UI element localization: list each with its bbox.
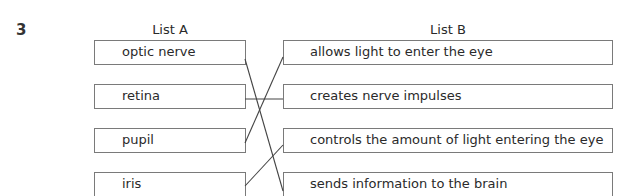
list-a-item-pupil[interactable]: pupil	[94, 128, 246, 153]
list-a-item-retina[interactable]: retina	[94, 84, 246, 109]
list-a-item-iris[interactable]: iris	[94, 172, 246, 196]
list-a-heading: List A	[94, 22, 246, 37]
list-b-item-sends-information[interactable]: sends information to the brain	[283, 172, 613, 196]
list-b-item-creates-impulses[interactable]: creates nerve impulses	[283, 84, 613, 109]
list-b-item-allows-light[interactable]: allows light to enter the eye	[283, 40, 613, 65]
list-b-item-controls-light[interactable]: controls the amount of light entering th…	[283, 128, 613, 153]
match-line-pupil	[245, 57, 283, 143]
list-a-item-optic-nerve[interactable]: optic nerve	[94, 40, 246, 65]
match-line-optic-nerve	[245, 59, 283, 191]
match-line-iris	[245, 145, 283, 186]
list-b-heading: List B	[283, 22, 613, 37]
question-number: 3	[16, 21, 26, 39]
